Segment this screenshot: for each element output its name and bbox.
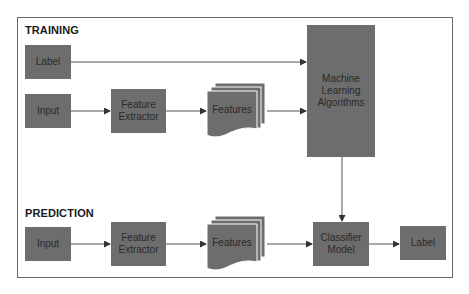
ml-algorithms-line2: Learning xyxy=(322,85,361,97)
training-feature-extractor-line2: Extractor xyxy=(118,111,158,123)
prediction-label-node-text: Label xyxy=(411,237,435,249)
training-label-node: Label xyxy=(25,45,71,79)
prediction-feature-extractor-line2: Extractor xyxy=(118,244,158,256)
training-label-node-text: Label xyxy=(36,56,60,68)
prediction-features-label: Features xyxy=(207,237,257,248)
training-input-node: Input xyxy=(25,94,71,128)
training-section-title: TRAINING xyxy=(25,24,79,36)
classifier-model-line1: Classifier xyxy=(320,232,361,244)
ml-algorithms-line3: Algorithms xyxy=(317,97,364,109)
training-feature-extractor-node: Feature Extractor xyxy=(111,89,166,133)
prediction-input-node: Input xyxy=(25,227,71,261)
prediction-feature-extractor-node: Feature Extractor xyxy=(111,222,166,266)
prediction-label-node: Label xyxy=(400,226,446,260)
classifier-model-line2: Model xyxy=(327,244,354,256)
training-features-label: Features xyxy=(207,104,257,115)
prediction-input-node-text: Input xyxy=(37,238,59,250)
ml-algorithms-node: Machine Learning Algorithms xyxy=(307,25,375,157)
prediction-feature-extractor-line1: Feature xyxy=(121,232,155,244)
classifier-model-node: Classifier Model xyxy=(313,222,369,266)
training-input-node-text: Input xyxy=(37,105,59,117)
prediction-section-title: PREDICTION xyxy=(25,207,94,219)
training-feature-extractor-line1: Feature xyxy=(121,99,155,111)
ml-algorithms-line1: Machine xyxy=(322,73,360,85)
